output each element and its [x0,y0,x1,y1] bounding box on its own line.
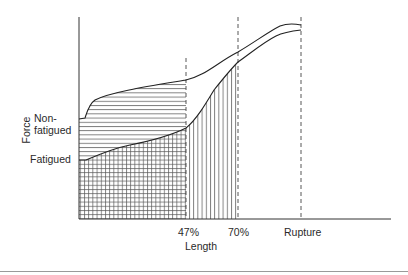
fatigued-label: Fatigued [30,153,71,165]
bottom-rule [0,271,408,272]
non-fatigued-label-line2: fatigued [34,124,71,136]
tick-label-rupture: Rupture [284,226,321,238]
diagram-svg [0,0,408,275]
y-axis-label: Force [20,110,32,150]
non-fatigued-label-line1: Non- [34,112,57,124]
x-axis-label: Length [185,240,217,252]
vertical-hatch-region [186,50,238,219]
force-length-diagram: Force Non- fatigued Fatigued 47% 70% Rup… [0,0,408,275]
tick-label-47: 47% [178,226,199,238]
tick-label-70: 70% [228,226,249,238]
